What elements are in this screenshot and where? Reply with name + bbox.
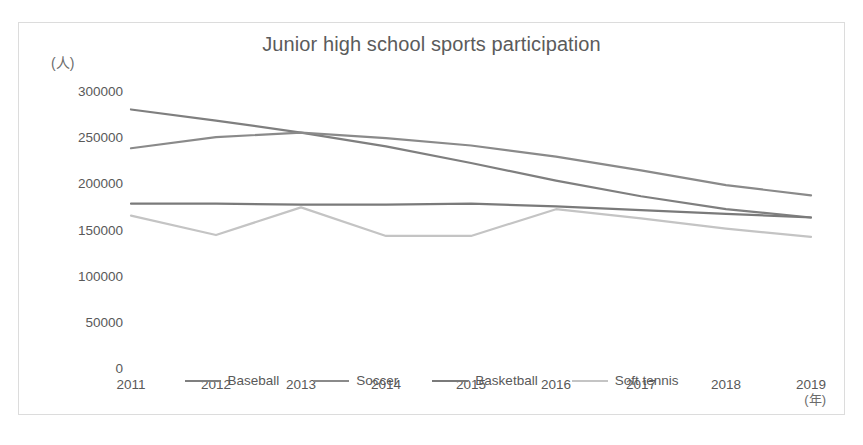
legend-label-baseball: Baseball xyxy=(228,373,280,388)
chart-legend: BaseballSoccerBasketballSoft tennis xyxy=(19,373,844,388)
y-axis-tick-label: 200000 xyxy=(78,176,123,191)
legend-item-basketball[interactable]: Basketball xyxy=(432,373,537,388)
y-axis-unit-label: (人) xyxy=(51,52,74,72)
legend-label-basketball: Basketball xyxy=(475,373,537,388)
chart-lines xyxy=(131,91,811,368)
legend-swatch-soft-tennis xyxy=(572,380,608,382)
x-axis-unit-label: (年) xyxy=(804,389,826,408)
y-axis-tick-label: 50000 xyxy=(85,314,123,329)
chart-line-baseball xyxy=(131,109,811,217)
y-axis-tick-label: 100000 xyxy=(78,268,123,283)
plot-area: 3000002500002000001500001000005000002011… xyxy=(131,91,811,368)
legend-item-soccer[interactable]: Soccer xyxy=(313,373,398,388)
legend-item-soft-tennis[interactable]: Soft tennis xyxy=(572,373,679,388)
y-axis-tick-label: 250000 xyxy=(78,130,123,145)
legend-item-baseball[interactable]: Baseball xyxy=(185,373,280,388)
legend-swatch-baseball xyxy=(185,380,221,382)
chart-card: Junior high school sports participation … xyxy=(18,22,845,415)
legend-swatch-soccer xyxy=(313,380,349,382)
chart-line-soft-tennis xyxy=(131,207,811,237)
y-axis-tick-label: 300000 xyxy=(78,84,123,99)
chart-title: Junior high school sports participation xyxy=(19,33,844,56)
legend-swatch-basketball xyxy=(432,380,468,382)
legend-label-soccer: Soccer xyxy=(356,373,398,388)
y-axis-tick-label: 150000 xyxy=(78,222,123,237)
legend-label-soft-tennis: Soft tennis xyxy=(615,373,679,388)
